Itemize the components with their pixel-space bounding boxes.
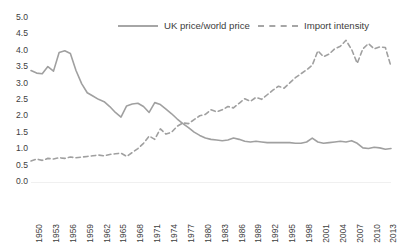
x-axis-tick-label: 1980 [204,224,213,243]
x-axis-tick-label: 2007 [356,224,365,243]
y-axis-tick-label: 3.0 [16,79,28,88]
x-axis-tick-label: 2010 [373,224,382,243]
x-axis-tick-label: 1956 [69,224,78,243]
x-axis-tick-label: 1974 [170,224,179,243]
x-axis-tick-label: 1965 [119,224,128,243]
x-axis-tick-label: 2001 [322,224,331,243]
x-axis-tick-label: 1995 [288,224,297,243]
x-axis-tick-label: 1950 [35,224,44,243]
x-axis-tick-label: 1992 [271,224,280,243]
plot-area [31,18,391,182]
y-axis-tick-label: 4.5 [16,29,28,38]
x-axis-tick-label: 1986 [238,224,247,243]
series-line-uk-price [31,51,391,149]
y-axis-tick-label: 1.5 [16,128,28,137]
y-axis-tick-label: 4.0 [16,46,28,55]
y-axis-tick-label: 2.5 [16,95,28,104]
x-axis-tick-label: 1968 [136,224,145,243]
y-axis-tick-label: 2.0 [16,111,28,120]
x-axis-tick-label: 1983 [221,224,230,243]
axis-baseline [31,182,391,183]
x-axis-tick-label: 1962 [103,224,112,243]
x-axis-tick-label: 1977 [187,224,196,243]
x-axis-tick-label: 2013 [389,224,397,243]
x-axis-tick-label: 1989 [254,224,263,243]
x-axis-tick-label: 1959 [86,224,95,243]
y-axis-tick-label: 0.0 [16,177,28,186]
y-axis-tick-label: 1.0 [16,144,28,153]
y-axis-tick-label: 5.0 [16,13,28,22]
y-axis: 5.04.54.03.53.02.52.01.51.00.50.0 [0,0,30,228]
y-axis-tick-label: 0.5 [16,161,28,170]
x-axis-tick-label: 2004 [339,224,348,243]
plot-svg [31,18,391,182]
x-axis-tick-label: 1971 [153,224,162,243]
x-axis: 1950195319561959196219651968197119741977… [31,184,391,228]
x-axis-tick-label: 1998 [305,224,314,243]
series-line-import-intensity [31,40,391,161]
y-axis-tick-label: 3.5 [16,62,28,71]
x-axis-tick-label: 1953 [52,224,61,243]
